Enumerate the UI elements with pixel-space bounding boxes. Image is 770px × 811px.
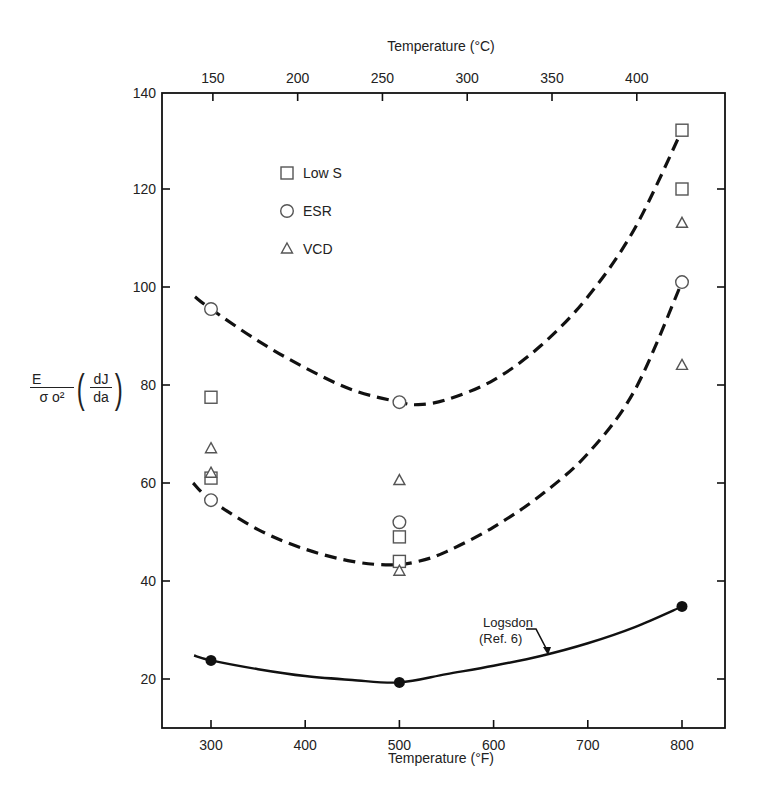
square-marker-icon <box>393 531 405 543</box>
x2-axis-title: Temperature (°C) <box>387 38 495 54</box>
triangle-marker-icon <box>282 243 293 253</box>
x-tick-label: 300 <box>199 737 223 753</box>
plot-frame <box>162 93 725 728</box>
logsdon-ref--curve <box>194 606 682 682</box>
lower-envelope-curve <box>193 282 682 565</box>
y-tick-label: 100 <box>133 279 157 295</box>
square-marker-icon <box>281 167 293 179</box>
circle-marker-icon <box>205 494 218 507</box>
y-label-derivative: dJ da <box>90 371 112 406</box>
right-paren-icon: ) <box>115 369 123 409</box>
y-tick-label: 80 <box>140 377 156 393</box>
x2-tick-label: 400 <box>625 70 649 86</box>
square-marker-icon <box>676 124 688 136</box>
upper-envelope-curve <box>195 130 682 405</box>
filled-circle-marker-icon <box>677 601 688 612</box>
fitted-curves <box>193 130 682 682</box>
x2-tick-label: 300 <box>456 70 480 86</box>
y-tick-label: 60 <box>140 475 156 491</box>
y-label-deriv-den: da <box>91 388 111 406</box>
triangle-marker-icon <box>394 475 405 485</box>
y-label-deriv-num: dJ <box>92 371 111 387</box>
x2-tick-label: 150 <box>201 70 225 86</box>
y-tick-label: 20 <box>140 671 156 687</box>
circle-marker-icon <box>281 205 294 218</box>
plot-axes: 3004005006007008001502002503003504002040… <box>133 70 725 753</box>
x-tick-label: 700 <box>576 737 600 753</box>
circle-marker-icon <box>205 303 218 316</box>
y-label-fraction: E σ o² <box>30 371 74 406</box>
data-points <box>205 124 689 688</box>
x-tick-label: 800 <box>670 737 694 753</box>
legend-label: VCD <box>303 241 333 257</box>
x-tick-label: 400 <box>294 737 318 753</box>
left-paren-icon: ( <box>77 369 85 409</box>
y-label-numerator: E <box>30 371 43 387</box>
circle-marker-icon <box>676 276 689 289</box>
y-label-denominator: σ o² <box>38 388 67 406</box>
triangle-marker-icon <box>206 443 217 453</box>
square-marker-icon <box>676 183 688 195</box>
triangle-marker-icon <box>677 217 688 227</box>
annotation-line2: (Ref. 6) <box>479 631 522 646</box>
y-tick-label: 120 <box>133 181 157 197</box>
annotation-line1: Logsdon <box>483 615 533 630</box>
triangle-marker-icon <box>677 359 688 369</box>
legend-label: ESR <box>303 203 332 219</box>
y-tick-label: 40 <box>140 573 156 589</box>
filled-circle-marker-icon <box>206 655 217 666</box>
square-marker-icon <box>205 391 217 403</box>
x-axis-title: Temperature (°F) <box>388 750 494 766</box>
circle-marker-icon <box>393 516 406 529</box>
circle-marker-icon <box>393 396 406 409</box>
y-axis-title: E σ o² ( dJ da ) <box>30 365 130 425</box>
legend: Low SESRVCD <box>281 165 342 257</box>
x2-tick-label: 250 <box>371 70 395 86</box>
logsdon-annotation: Logsdon (Ref. 6) <box>479 615 551 655</box>
y-tick-label: 140 <box>133 85 157 101</box>
x2-tick-label: 200 <box>286 70 310 86</box>
x2-tick-label: 350 <box>540 70 564 86</box>
filled-circle-marker-icon <box>394 677 405 688</box>
legend-label: Low S <box>303 165 342 181</box>
